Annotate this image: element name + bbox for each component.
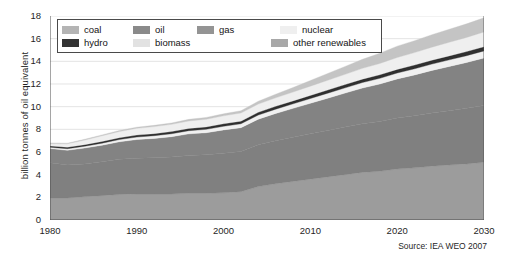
- x-tick-2030: 2030: [464, 225, 504, 236]
- legend-swatch-nuclear-icon: [280, 26, 297, 34]
- x-tick-2000: 2000: [204, 225, 244, 236]
- y-tick-6: 6: [19, 147, 41, 156]
- legend-swatch-gas-icon: [197, 26, 214, 34]
- legend-swatch-other-renewables-icon: [271, 39, 288, 47]
- legend-label: gas: [219, 25, 234, 34]
- legend-swatch-hydro-icon: [62, 39, 79, 47]
- source-note: Source: IEA WEO 2007: [398, 241, 487, 251]
- y-tick-2: 2: [19, 192, 41, 201]
- legend-label: other renewables: [293, 38, 366, 47]
- legend-label: hydro: [84, 38, 108, 47]
- legend-item-other-renewables[interactable]: other renewables: [271, 38, 366, 47]
- y-tick-8: 8: [19, 124, 41, 133]
- legend-swatch-oil-icon: [133, 26, 150, 34]
- legend-label: coal: [84, 25, 101, 34]
- x-tick-2020: 2020: [377, 225, 417, 236]
- y-tick-14: 14: [19, 56, 41, 65]
- legend-item-gas[interactable]: gas: [197, 25, 271, 34]
- chart-container: billion tonnes of oil equivalent 1816141…: [0, 0, 505, 264]
- legend-row-1: coaloilgasnuclear: [62, 23, 375, 36]
- legend-swatch-coal-icon: [62, 26, 79, 34]
- legend-item-nuclear[interactable]: nuclear: [280, 25, 333, 34]
- y-tick-12: 12: [19, 79, 41, 88]
- x-axis-tick-labels: 198019902000201020202030: [0, 222, 505, 240]
- y-tick-18: 18: [19, 11, 41, 20]
- legend-item-coal[interactable]: coal: [62, 25, 124, 34]
- legend-swatch-biomass-icon: [133, 39, 150, 47]
- x-tick-1980: 1980: [30, 225, 70, 236]
- y-tick-10: 10: [19, 102, 41, 111]
- legend-item-hydro[interactable]: hydro: [62, 38, 124, 47]
- x-tick-1990: 1990: [117, 225, 157, 236]
- legend-row-2: hydrobiomassother renewables: [62, 36, 375, 49]
- chart-legend: coaloilgasnuclear hydrobiomassother rene…: [57, 19, 382, 53]
- y-tick-16: 16: [19, 34, 41, 43]
- legend-label: biomass: [155, 38, 190, 47]
- legend-label: oil: [155, 25, 165, 34]
- x-tick-2010: 2010: [290, 225, 330, 236]
- legend-item-oil[interactable]: oil: [133, 25, 188, 34]
- legend-label: nuclear: [302, 25, 333, 34]
- legend-item-biomass[interactable]: biomass: [133, 38, 262, 47]
- y-tick-4: 4: [19, 170, 41, 179]
